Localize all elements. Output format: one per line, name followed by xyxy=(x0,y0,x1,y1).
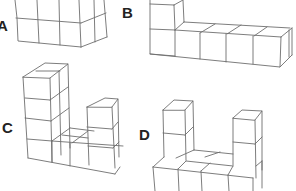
figure-c-cubes xyxy=(23,63,123,174)
cube-figures-canvas xyxy=(0,0,296,191)
figure-label-b: B xyxy=(122,5,133,20)
figure-b-cubes xyxy=(150,0,292,67)
figure-label-c: C xyxy=(2,120,13,135)
figure-a-cubes xyxy=(15,0,107,47)
figure-label-d: D xyxy=(139,127,150,142)
cube-puzzle-diagram: A B C D xyxy=(0,0,296,191)
figure-d-cubes xyxy=(153,100,262,191)
figure-label-a: A xyxy=(0,18,8,33)
